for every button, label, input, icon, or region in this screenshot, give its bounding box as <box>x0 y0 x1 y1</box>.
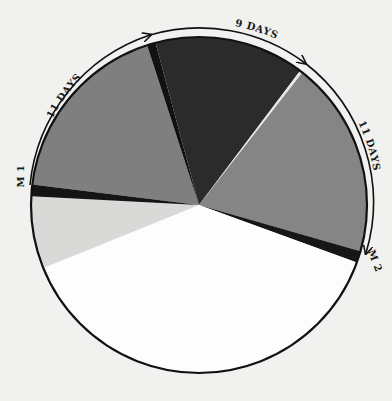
label-m2: M 2 <box>366 248 384 273</box>
pie-slices <box>31 37 367 373</box>
label-m1: M 1 <box>15 164 26 187</box>
pie-chart: 11 DAYS 9 DAYS 11 DAYS M 1 M 2 <box>0 0 392 401</box>
